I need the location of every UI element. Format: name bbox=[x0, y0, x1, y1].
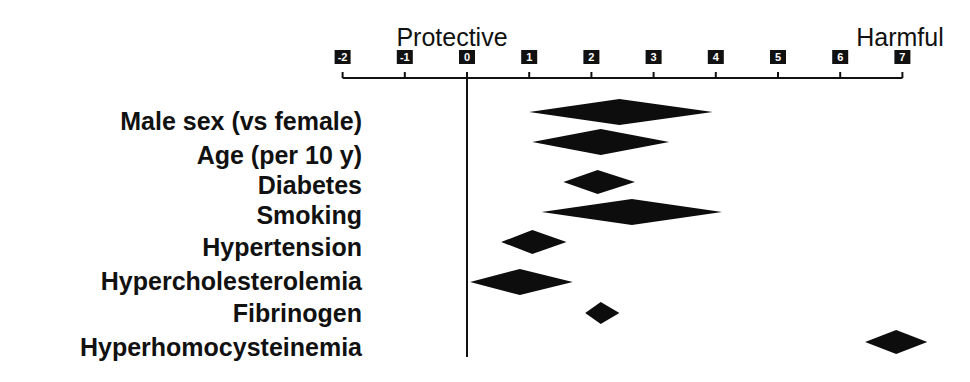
tick-label: 6 bbox=[837, 51, 843, 63]
estimate-diamond bbox=[470, 269, 573, 295]
row-label: Hyperhomocysteinemia bbox=[80, 333, 363, 361]
row-label: Diabetes bbox=[258, 171, 362, 199]
row-label: Age (per 10 y) bbox=[197, 141, 362, 169]
protective-header: Protective bbox=[396, 23, 507, 51]
tick-label: -1 bbox=[400, 51, 410, 63]
tick-label: 7 bbox=[899, 51, 905, 63]
tick-label: 0 bbox=[464, 51, 470, 63]
tick-label: -2 bbox=[338, 51, 348, 63]
forest-plot: Protective Harmful -2-101234567 Male sex… bbox=[0, 0, 970, 382]
tick-label: 2 bbox=[588, 51, 594, 63]
row-label: Hypertension bbox=[202, 233, 362, 261]
estimate-diamonds bbox=[470, 99, 927, 354]
estimate-diamond bbox=[563, 170, 635, 194]
estimate-diamond bbox=[585, 302, 619, 324]
tick-label: 3 bbox=[651, 51, 657, 63]
tick-label: 4 bbox=[713, 51, 720, 63]
estimate-diamond bbox=[542, 199, 722, 225]
estimate-diamond bbox=[529, 99, 712, 125]
row-label: Male sex (vs female) bbox=[120, 107, 362, 135]
row-label: Smoking bbox=[256, 201, 362, 229]
row-label: Fibrinogen bbox=[233, 299, 362, 327]
tick-label: 5 bbox=[775, 51, 781, 63]
row-labels: Male sex (vs female)Age (per 10 y)Diabet… bbox=[80, 107, 363, 361]
x-axis: -2-101234567 bbox=[335, 50, 911, 78]
estimate-diamond bbox=[501, 230, 566, 254]
estimate-diamond bbox=[532, 129, 669, 155]
harmful-header: Harmful bbox=[856, 23, 944, 51]
row-label: Hypercholesterolemia bbox=[101, 267, 363, 295]
tick-label: 1 bbox=[526, 51, 532, 63]
estimate-diamond bbox=[865, 330, 927, 354]
